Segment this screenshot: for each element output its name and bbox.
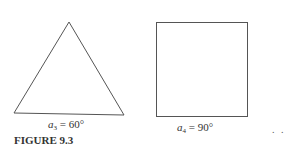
continuation-dots: . .	[272, 124, 286, 135]
figure-drawing	[0, 0, 287, 153]
square-label: a4 = 90°	[177, 121, 213, 135]
square-shape	[157, 23, 248, 117]
triangle-label: a3 = 60°	[48, 118, 84, 132]
figure-caption: FIGURE 9.3	[14, 134, 73, 146]
triangle-shape	[14, 22, 124, 115]
